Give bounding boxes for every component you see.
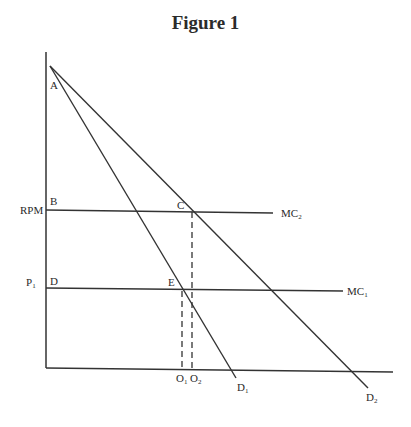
point-a-label: A	[50, 79, 58, 91]
point-b-label: B	[50, 195, 57, 207]
rpm-label: RPM	[20, 204, 43, 216]
point-c-label: C	[177, 199, 184, 211]
o1-label: O1	[176, 372, 188, 386]
demand-curve-d1	[50, 66, 236, 378]
mc1-label: MC1	[347, 285, 368, 299]
point-d-label: D	[50, 275, 58, 287]
economics-diagram: A B C D E RPM P1 O1 O2 MC2 MC1 D1 D2	[0, 0, 411, 427]
mc2-line	[46, 210, 273, 213]
d2-label: D2	[366, 391, 378, 405]
point-e-label: E	[168, 276, 175, 288]
o2-label: O2	[190, 372, 202, 386]
demand-curve-d2	[50, 66, 368, 388]
p1-label: P1	[26, 276, 36, 290]
x-axis	[46, 368, 393, 372]
d1-label: D1	[237, 381, 249, 395]
mc2-label: MC2	[281, 207, 302, 221]
mc1-line	[46, 288, 343, 291]
